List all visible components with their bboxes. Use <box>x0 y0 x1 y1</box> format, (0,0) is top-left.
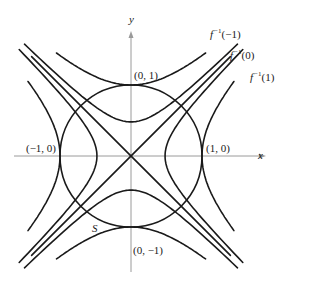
point-label-right: (1, 0) <box>206 143 230 154</box>
level-exp: −1 <box>214 27 221 35</box>
level-exp: −1 <box>254 70 261 78</box>
level-set-label-zero: f−1(0) <box>230 50 254 61</box>
level-set-label-one: f−1(1) <box>250 72 274 83</box>
level-exp: −1 <box>234 48 241 56</box>
point-label-bottom: (0, −1) <box>133 245 163 256</box>
point-label-left: (−1, 0) <box>26 143 56 154</box>
y-axis-arrow-icon <box>129 31 134 38</box>
level-set-label-minus-one: f−1(−1) <box>210 29 241 40</box>
level-fn: f <box>210 28 213 40</box>
level-arg: (0) <box>242 49 255 61</box>
point-label-top: (0, 1) <box>134 70 158 81</box>
y-axis-label: y <box>129 14 134 25</box>
level-arg: (1) <box>262 71 275 83</box>
x-axis-label: x <box>258 150 263 161</box>
surface-label-s: S <box>92 223 98 234</box>
level-fn: f <box>230 49 233 61</box>
level-fn: f <box>250 71 253 83</box>
level-arg: (−1) <box>222 28 241 40</box>
